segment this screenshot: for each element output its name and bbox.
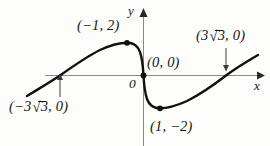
- right-root-prefix: (3: [196, 27, 208, 43]
- left-root-radical: √3: [31, 99, 48, 114]
- y-axis-arrowhead: [140, 8, 148, 17]
- label-origin-point: (0, 0): [147, 55, 180, 70]
- label-local-max: (−1, 2): [77, 18, 120, 33]
- point-marker-local-max: [124, 40, 130, 46]
- point-marker-local-min: [157, 105, 163, 111]
- x-axis-label: x: [254, 79, 260, 92]
- radical-overbar: [215, 30, 223, 31]
- plot-canvas: [0, 0, 270, 146]
- label-local-min: (1, −2): [150, 119, 193, 134]
- origin-label: 0: [129, 77, 136, 91]
- graph-figure: y x 0 (−1, 2) (0, 0) (1, −2) (−3√3, 0) (…: [0, 0, 270, 146]
- right-root-leader-arrowhead: [223, 65, 229, 72]
- y-axis-label: y: [128, 4, 134, 17]
- label-right-root: (3√3, 0): [196, 28, 245, 43]
- left-root-prefix: (−3: [9, 98, 31, 114]
- label-left-root: (−3√3, 0): [9, 99, 68, 114]
- right-root-suffix: , 0): [225, 27, 245, 43]
- left-root-suffix: , 0): [48, 98, 68, 114]
- right-root-radical: √3: [208, 28, 225, 43]
- radical-overbar: [38, 101, 46, 102]
- point-marker-origin: [141, 73, 147, 79]
